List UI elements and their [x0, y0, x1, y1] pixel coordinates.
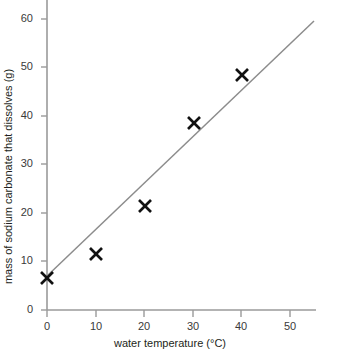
plot-area	[0, 0, 340, 353]
trend-line	[47, 21, 314, 276]
data-point-marker	[90, 248, 102, 260]
y-axis-title: mass of sodium carbonate that dissolves …	[0, 0, 16, 353]
y-axis-ticks	[41, 19, 47, 310]
chart-container: 60 50 40 30 20 10 0 0 10 20 30 40 50 wat…	[0, 0, 340, 353]
x-tick-label-20: 20	[132, 321, 156, 332]
x-axis-ticks	[47, 310, 290, 317]
x-axis-title: water temperature (°C)	[0, 337, 340, 349]
x-tick-label-10: 10	[84, 321, 108, 332]
data-point-marker	[236, 69, 248, 81]
data-point-marker	[139, 200, 151, 212]
x-tick-label-50: 50	[278, 321, 302, 332]
x-tick-label-0: 0	[35, 321, 59, 332]
x-tick-label-40: 40	[229, 321, 253, 332]
x-tick-label-30: 30	[181, 321, 205, 332]
data-point-marker	[188, 117, 200, 129]
